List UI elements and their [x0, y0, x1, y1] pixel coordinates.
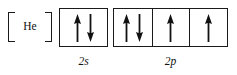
spin-up-arrow-icon	[166, 13, 175, 43]
single-electron	[204, 9, 213, 46]
spin-up-arrow-icon	[73, 13, 82, 43]
spin-up-arrow-icon	[204, 13, 213, 43]
orbital-box-row-2s	[59, 8, 108, 47]
subshell-2p: 2p	[113, 8, 228, 68]
bracket-open-icon	[8, 12, 15, 42]
orbital-box-row-2p	[113, 8, 228, 47]
orbital-box	[60, 9, 107, 46]
spin-down-arrow-icon	[86, 13, 95, 43]
core-element-label: He	[23, 21, 37, 33]
orbital-diagram: He 2s	[0, 0, 237, 75]
spin-up-arrow-icon	[122, 13, 131, 43]
orbital-box	[152, 9, 190, 46]
single-electron	[166, 9, 175, 46]
electron-pair	[73, 9, 95, 46]
orbital-box	[189, 9, 227, 46]
subshell-2s: 2s	[59, 8, 108, 68]
subshell-label-2p: 2p	[113, 56, 228, 68]
subshell-label-2s: 2s	[59, 56, 108, 68]
spin-down-arrow-icon	[135, 13, 144, 43]
orbital-box	[114, 9, 152, 46]
bracket-close-icon	[45, 12, 52, 42]
electron-pair	[122, 9, 144, 46]
noble-gas-core: He	[8, 12, 52, 42]
